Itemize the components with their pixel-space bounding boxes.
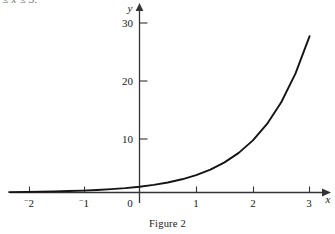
curve-y-equals-3-to-the-x <box>9 36 310 192</box>
figure-page: ≤ x ≤ 3. y x <box>0 0 335 234</box>
figure-caption: Figure 2 <box>0 218 335 229</box>
y-axis <box>136 3 144 203</box>
y-axis-ticks <box>140 23 148 139</box>
x-axis-label: x <box>325 193 331 205</box>
x-tick-label-2: 2 <box>250 197 256 209</box>
y-axis-label: y <box>127 2 133 14</box>
y-tick-label-10: 10 <box>122 133 134 145</box>
y-axis-arrowhead <box>136 3 144 11</box>
x-tick-label-0: 0 <box>127 197 133 209</box>
x-tick-labels: −2 −1 0 1 2 3 <box>24 196 312 209</box>
y-tick-label-30: 30 <box>122 17 134 29</box>
x-tick-label-3: 3 <box>306 197 312 209</box>
x-tick-label--2: −2 <box>24 196 34 209</box>
x-axis <box>10 189 331 197</box>
exponential-graph: y x 10 20 30 −2 −1 0 1 2 3 <box>0 0 335 234</box>
y-tick-label-20: 20 <box>122 75 134 87</box>
x-tick-label--1: −1 <box>79 196 89 209</box>
x-tick-label-1: 1 <box>193 197 199 209</box>
